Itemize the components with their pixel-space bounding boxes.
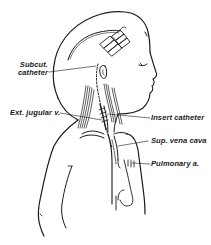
clavicle — [80, 131, 128, 138]
illustration-canvas: Subcut. catheter Ext. jugular v. Insert … — [0, 0, 211, 245]
label-subcut-catheter: Subcut. catheter — [10, 61, 48, 77]
superior-vena-cava — [108, 134, 120, 204]
torso-outline — [38, 120, 78, 236]
label-sup-vena-cava: Sup. vena cava — [151, 137, 207, 145]
ear — [100, 65, 107, 78]
leader-lines — [49, 66, 150, 164]
label-subcut-catheter-line2: catheter — [10, 69, 48, 77]
label-ext-jugular-vein: Ext. jugular v. — [10, 109, 60, 117]
face-profile — [118, 52, 157, 114]
heart-pulmonary-artery — [116, 134, 145, 214]
label-insert-catheter: Insert catheter — [151, 114, 204, 122]
label-pulmonary-artery: Pulmonary a. — [151, 160, 199, 168]
anatomy-drawing — [0, 0, 211, 245]
